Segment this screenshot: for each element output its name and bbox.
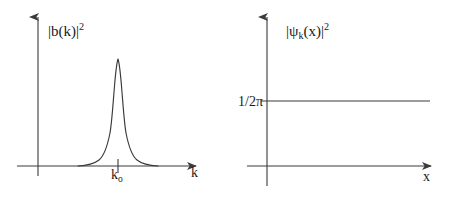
panel-momentum-distribution: |b(k)|2 ko k — [0, 0, 232, 209]
y-axis-label-psi-k-x: |ψk(x)|2 — [286, 22, 329, 41]
y-axis-label-psi-symbol: ψ — [289, 23, 298, 39]
y-axis-label-base: |b(k)| — [48, 23, 79, 39]
x-tick-label-subscript: o — [118, 174, 123, 184]
momentum-distribution-curve — [78, 59, 158, 166]
panel-wavefunction-probability-density: |ψk(x)|2 1/2π x — [231, 0, 463, 209]
y-axis-label-argument: (x)| — [304, 23, 325, 39]
y-tick-label-one-over-two-pi: 1/2π — [238, 95, 263, 109]
x-tick-label-base: k — [111, 167, 118, 182]
y-axis-label-b-of-k: |b(k)|2 — [48, 22, 84, 39]
x-tick-label-k-zero: ko — [111, 168, 123, 184]
x-axis-label-k: k — [191, 166, 198, 180]
y-axis-label-exponent: 2 — [79, 21, 84, 32]
x-axis-label-x: x — [423, 170, 430, 184]
two-panel-figure: |b(k)|2 ko k |ψk(x)|2 — [0, 0, 463, 209]
y-axis-label-exponent: 2 — [324, 21, 329, 32]
